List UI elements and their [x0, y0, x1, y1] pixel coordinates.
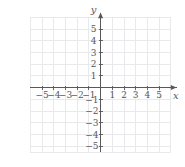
- y-tick-label: 2: [91, 59, 97, 69]
- x-tick-label: 3: [133, 90, 139, 100]
- x-tick-label: 2: [121, 90, 127, 100]
- axes-lines: [30, 13, 176, 153]
- x-tick-label: 1: [109, 90, 115, 100]
- y-tick-label: 3: [91, 48, 97, 58]
- coordinate-plane-canvas: −5 −4 −3 −2 −1 1 2 3 4 5 5 4 3 2 1 −1 −2…: [0, 0, 185, 167]
- y-tick-label: −4: [85, 130, 99, 140]
- y-tick-label: −3: [85, 118, 99, 128]
- x-tick-label: 4: [145, 90, 151, 100]
- y-axis-label: y: [90, 4, 97, 15]
- x-axis-label: x: [173, 90, 179, 101]
- y-tick-label: 5: [91, 24, 97, 34]
- y-tick-label: −5: [85, 141, 99, 151]
- y-axis-tick-labels-positive: 5 4 3 2 1: [91, 24, 97, 81]
- x-tick-label: 5: [156, 90, 162, 100]
- y-tick-label: −1: [85, 95, 98, 105]
- axis-arrowheads: [98, 13, 176, 91]
- y-tick-label: 1: [91, 71, 97, 81]
- coordinate-plane-figure: −5 −4 −3 −2 −1 1 2 3 4 5 5 4 3 2 1 −1 −2…: [0, 0, 185, 167]
- y-tick-label: 4: [91, 36, 97, 46]
- y-axis-tick-labels-negative: −1 −2 −3 −4 −5: [85, 95, 99, 152]
- arrow-up-icon: [98, 13, 103, 19]
- y-tick-label: −2: [85, 106, 98, 116]
- x-axis-tick-labels-positive: 1 2 3 4 5: [109, 90, 162, 100]
